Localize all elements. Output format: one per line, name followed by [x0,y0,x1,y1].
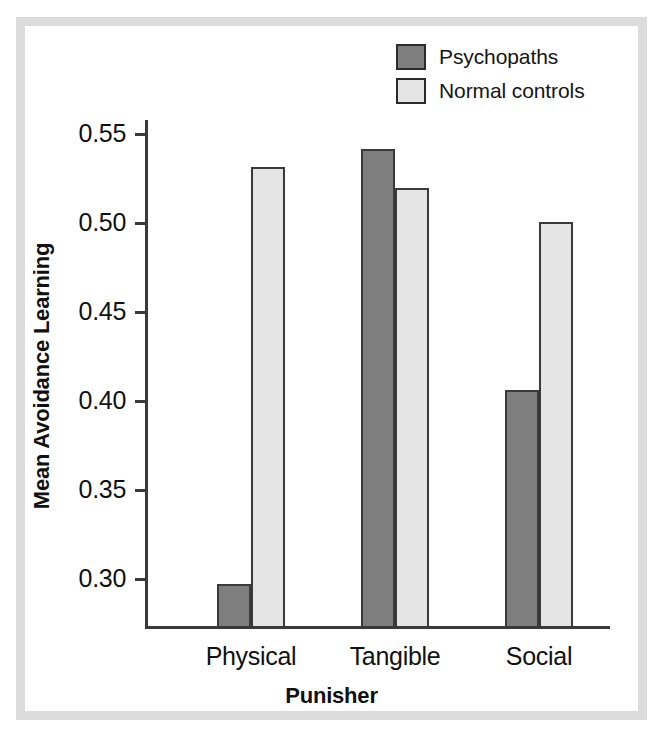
legend-swatch-normal-controls [396,78,426,104]
y-axis-tick-label: 0.55 [79,119,126,148]
bar-tangible-psychopaths [361,149,395,628]
chart-canvas: Psychopaths Normal controls 0.300.350.40… [0,0,663,737]
bar-tangible-normal-controls [395,188,429,628]
x-axis-label-social: Social [469,642,609,671]
y-axis-tick-label: 0.50 [79,208,126,237]
y-axis-line [145,120,148,629]
bar-social-normal-controls [539,222,573,628]
bar-physical-normal-controls [251,167,285,628]
bar-social-psychopaths [505,390,539,628]
y-axis-tick: 0.50 [135,222,146,225]
y-axis-tick: 0.30 [135,578,146,581]
y-axis-tick-label: 0.40 [79,386,126,415]
y-axis-tick: 0.55 [135,133,146,136]
y-axis-tick-label: 0.45 [79,297,126,326]
figure-root: Psychopaths Normal controls 0.300.350.40… [0,0,663,737]
y-axis-tick: 0.45 [135,311,146,314]
x-axis-label-physical: Physical [181,642,321,671]
legend-item-psychopaths: Psychopaths [396,40,636,74]
y-axis-tick: 0.35 [135,489,146,492]
y-axis-tick-label: 0.30 [79,564,126,593]
y-axis-title: Mean Avoidance Learning [29,166,55,586]
y-axis-tick: 0.40 [135,400,146,403]
x-axis-label-tangible: Tangible [325,642,465,671]
legend-label-psychopaths: Psychopaths [439,45,558,69]
legend-item-normal-controls: Normal controls [396,74,636,108]
plot-area: 0.300.350.400.450.500.55 [145,120,610,629]
chart-legend: Psychopaths Normal controls [396,40,636,108]
y-axis-tick-label: 0.35 [79,475,126,504]
legend-label-normal-controls: Normal controls [439,79,585,103]
bar-physical-psychopaths [217,584,251,628]
x-axis-title: Punisher [0,683,663,709]
legend-swatch-psychopaths [396,44,426,70]
